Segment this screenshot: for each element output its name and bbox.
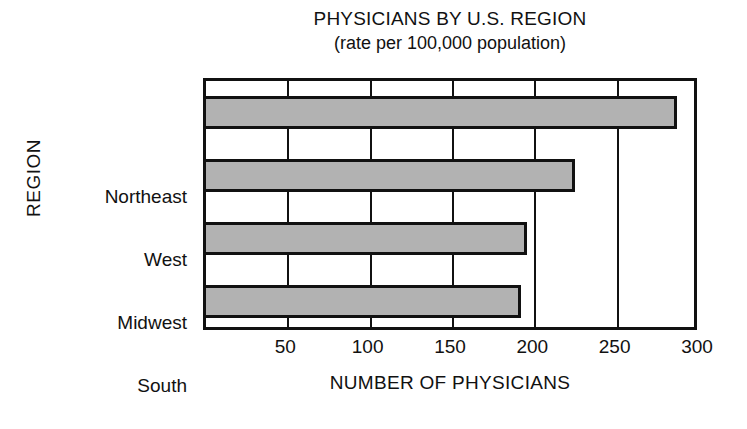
bar-south bbox=[206, 285, 521, 318]
x-tick-label-200: 200 bbox=[516, 336, 548, 358]
chart-title-block: PHYSICIANS BY U.S. REGION (rate per 100,… bbox=[203, 6, 697, 55]
x-axis-title: NUMBER OF PHYSICIANS bbox=[203, 372, 697, 394]
chart-figure: PHYSICIANS BY U.S. REGION (rate per 100,… bbox=[0, 0, 747, 429]
y-tick-label-south: South bbox=[137, 375, 187, 397]
bar-midwest bbox=[206, 222, 527, 255]
x-tick-label-50: 50 bbox=[275, 336, 296, 358]
chart-title: PHYSICIANS BY U.S. REGION bbox=[203, 6, 697, 31]
y-axis-tick-labels: Northeast West Midwest South bbox=[60, 78, 195, 330]
chart-subtitle: (rate per 100,000 population) bbox=[203, 31, 697, 55]
bar-west bbox=[206, 159, 575, 192]
y-tick-label-west: West bbox=[144, 249, 187, 271]
bar-northeast bbox=[206, 96, 677, 129]
x-axis-tick-labels: 50100150200250300 bbox=[203, 336, 697, 362]
x-tick-label-250: 250 bbox=[599, 336, 631, 358]
y-tick-label-midwest: Midwest bbox=[117, 312, 187, 334]
x-tick-label-150: 150 bbox=[434, 336, 466, 358]
plot-area bbox=[203, 78, 697, 330]
plot-inner bbox=[206, 81, 694, 327]
y-tick-label-northeast: Northeast bbox=[105, 186, 187, 208]
y-axis-title: REGION bbox=[23, 108, 45, 248]
x-tick-label-300: 300 bbox=[681, 336, 713, 358]
x-tick-label-100: 100 bbox=[352, 336, 384, 358]
